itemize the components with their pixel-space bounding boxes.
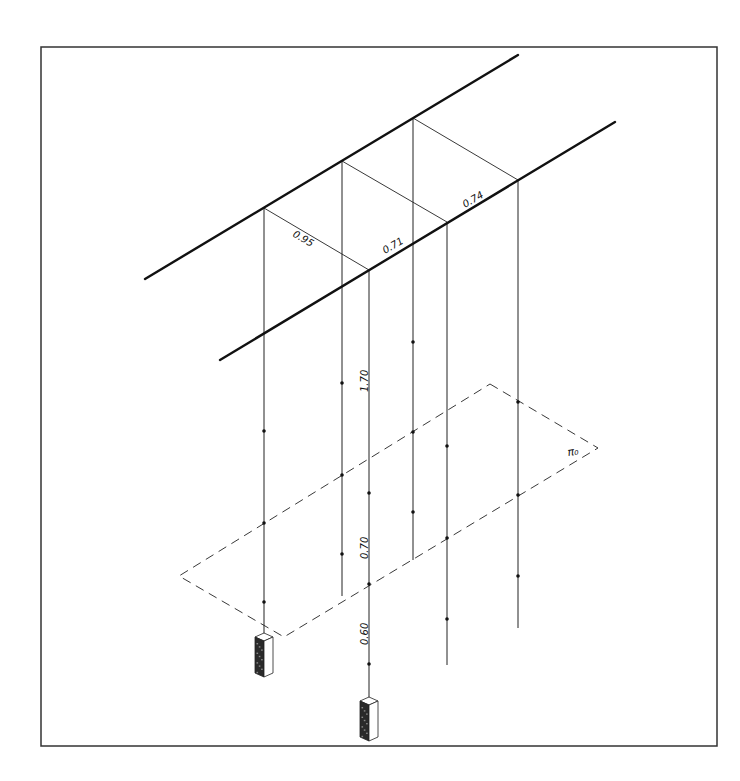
junction-dot [262,600,266,604]
plane-label-pi0: π₀ [567,444,580,458]
junction-dot [340,381,344,385]
cross-link [413,118,518,180]
junction-dot [516,493,520,497]
reference-plane [179,384,598,637]
label-1-70: 1.70 [359,370,370,392]
label-0-71: 0.71 [381,235,406,256]
cross-link [342,161,447,222]
label-0-60: 0.60 [359,623,370,645]
cross-link [264,208,369,270]
drawing-border [41,47,717,746]
junction-dot [445,536,449,540]
main-rails [145,55,615,360]
vertical-pipes [264,118,518,700]
device-box-1 [255,633,273,677]
rear-rail [145,55,518,279]
junction-dot [367,582,371,586]
isometric-diagram: 0.95 0.71 0.74 1.70 0.70 0.60 π₀ [0,0,740,781]
device-boxes [255,633,378,741]
junction-dot [340,552,344,556]
junction-dot [367,662,371,666]
device-box-2 [360,697,378,741]
junction-dot [411,430,415,434]
label-0-95: 0.95 [291,228,316,249]
junction-dot [340,473,344,477]
junction-dot [445,444,449,448]
junction-dot [445,617,449,621]
junction-dot [262,521,266,525]
junction-dot [516,400,520,404]
junction-dot [411,510,415,514]
junction-dot [367,491,371,495]
front-rail [220,122,615,360]
junction-dot [411,340,415,344]
label-0-70: 0.70 [359,537,370,559]
junction-dot [262,429,266,433]
junction-dot [516,574,520,578]
